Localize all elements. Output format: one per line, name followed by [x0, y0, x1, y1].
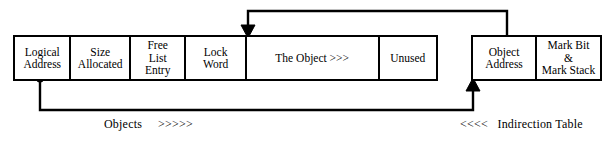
field-logical-address-label: Logical Address	[23, 46, 61, 71]
field-lock-word-label: Lock Word	[203, 46, 228, 71]
field-mark-bit-mark-stack-label: Mark Bit & Mark Stack	[542, 39, 595, 76]
field-mark-bit-mark-stack: Mark Bit & Mark Stack	[537, 37, 600, 79]
field-size-allocated: Size Allocated	[71, 37, 130, 79]
field-the-object-label: The Object >>>	[275, 52, 349, 64]
diagram-canvas: Logical Address Size Allocated Free List…	[0, 0, 614, 141]
indirection-table-caption: <<<< Indirection Table	[460, 117, 583, 132]
field-unused-label: Unused	[390, 52, 425, 64]
field-lock-word: Lock Word	[186, 37, 246, 79]
field-free-list-entry-label: Free List Entry	[145, 39, 171, 76]
field-the-object: The Object >>>	[247, 37, 380, 79]
field-object-address-label: Object Address	[485, 46, 523, 71]
field-logical-address: Logical Address	[15, 37, 71, 79]
field-unused: Unused	[380, 37, 436, 79]
field-size-allocated-label: Size Allocated	[78, 46, 123, 71]
field-free-list-entry: Free List Entry	[131, 37, 186, 79]
object-record-table: Logical Address Size Allocated Free List…	[13, 35, 438, 81]
objects-caption: Objects >>>>>	[104, 117, 193, 132]
field-object-address: Object Address	[473, 37, 537, 79]
indirection-record-table: Object Address Mark Bit & Mark Stack	[471, 35, 602, 81]
